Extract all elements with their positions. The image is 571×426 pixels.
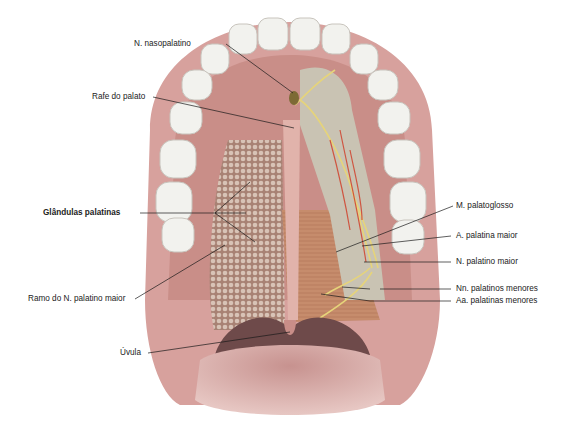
label-nn-palatinos-menores: Nn. palatinos menores [456,284,538,294]
label-glandulas-palatinas: Glândulas palatinas [43,208,120,218]
label-n-palatino-maior: N. palatino maior [456,257,518,267]
label-m-palatoglosso: M. palatoglosso [456,201,513,211]
incisive-foramen [289,91,299,105]
label-ramo-n-palatino-maior: Ramo do N. palatino maior [28,294,125,304]
tongue [195,345,385,415]
label-uvula: Úvula [120,348,141,358]
label-aa-palatinas-menores: Aa. palatinas menores [456,296,537,306]
label-n-nasopalatino: N. nasopalatino [134,39,191,49]
label-a-palatina-maior: A. palatina maior [456,231,517,241]
label-rafe-do-palato: Rafe do palato [92,92,145,102]
palatine-glands-region [210,140,285,330]
palate-anatomy-illustration: N. nasopalatino Rafe do palato Glândulas… [0,0,571,426]
